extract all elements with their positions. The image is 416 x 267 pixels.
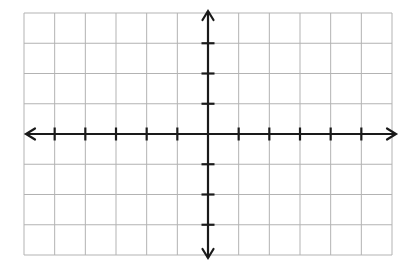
coordinate-grid-canvas — [0, 0, 416, 267]
axes-group — [26, 11, 396, 258]
coordinate-plane-graphic — [0, 0, 416, 267]
